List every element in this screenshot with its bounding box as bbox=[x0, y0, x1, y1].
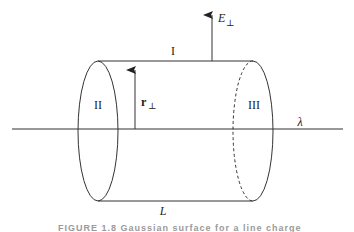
svg-text:⊥: ⊥ bbox=[148, 101, 156, 111]
label-cap-iii: III bbox=[248, 98, 260, 112]
right-end-cap-front bbox=[253, 61, 273, 201]
label-lambda: λ bbox=[296, 115, 302, 129]
label-surface-i: I bbox=[171, 44, 175, 58]
label-length: L bbox=[159, 204, 167, 218]
svg-text:E: E bbox=[217, 11, 226, 25]
svg-text:⊥: ⊥ bbox=[226, 18, 234, 28]
right-end-cap-back bbox=[233, 61, 253, 201]
figure-caption: FIGURE 1.8 Gaussian surface for a line c… bbox=[58, 223, 302, 232]
gaussian-cylinder-diagram: I II III λ L r ⊥ E ⊥ FIGURE 1.8 Gaussian… bbox=[0, 0, 354, 232]
left-end-cap bbox=[78, 61, 118, 201]
label-radius-vector: r ⊥ bbox=[141, 95, 156, 111]
label-cap-ii: II bbox=[94, 98, 102, 112]
label-field-vector: E ⊥ bbox=[217, 11, 234, 28]
svg-text:r: r bbox=[141, 95, 147, 109]
